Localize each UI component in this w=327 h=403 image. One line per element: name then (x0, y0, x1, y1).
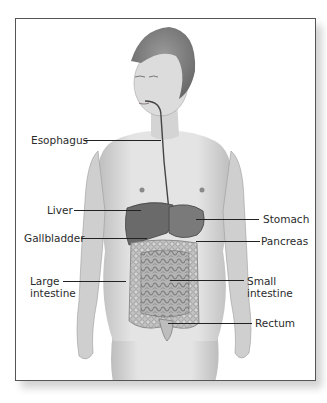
right-arm (223, 151, 251, 358)
leader-gallbladder (81, 238, 147, 239)
label-large-intestine-line1: Large (30, 275, 60, 287)
label-stomach: Stomach (263, 213, 309, 225)
leader-stomach (196, 219, 259, 220)
label-small-intestine-line2: intestine (247, 287, 293, 299)
label-rectum: Rectum (255, 317, 295, 329)
label-esophagus: Esophagus (31, 134, 88, 146)
label-small-intestine-line1: Small (247, 275, 276, 287)
label-large-intestine-line2: intestine (30, 287, 76, 299)
leader-small-intestine (170, 280, 244, 281)
leader-large-intestine (63, 281, 126, 282)
leader-pancreas (196, 241, 260, 242)
left-arm (77, 151, 105, 359)
label-gallbladder: Gallbladder (24, 232, 85, 244)
leader-rectum (168, 323, 252, 324)
stomach-organ (169, 205, 204, 238)
label-liver: Liver (47, 204, 73, 216)
leader-esophagus (84, 140, 161, 141)
leader-liver (74, 210, 141, 211)
small-intestine-organ (141, 250, 189, 317)
label-pancreas: Pancreas (261, 235, 308, 247)
